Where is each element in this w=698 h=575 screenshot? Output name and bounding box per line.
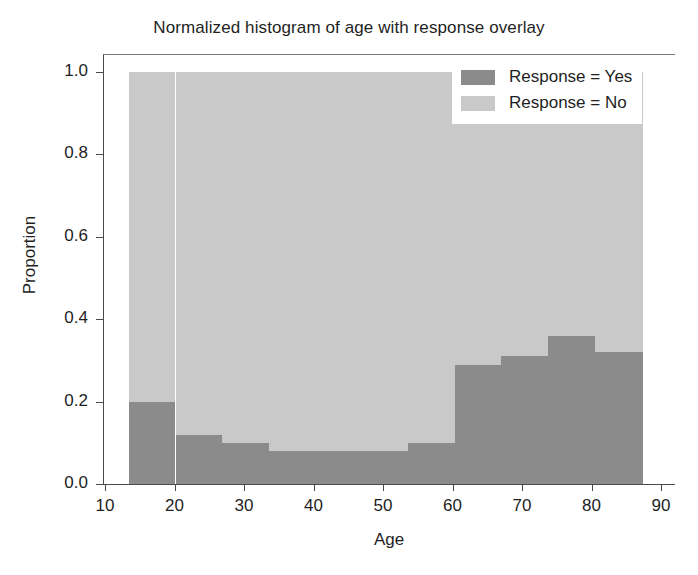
- x-tick-mark: [244, 484, 245, 491]
- x-tick-mark: [383, 484, 384, 491]
- bar-group: [222, 55, 269, 484]
- bar-segment-response-yes: [408, 443, 455, 484]
- x-tick-mark: [105, 484, 106, 491]
- bar-segment-response-yes: [269, 451, 316, 484]
- bar-segment-response-no: [408, 72, 455, 484]
- y-tick-label: 0.0: [18, 473, 88, 493]
- y-tick-label: 0.2: [18, 391, 88, 411]
- x-tick-label: 60: [423, 496, 483, 516]
- bar-segment-response-no: [222, 72, 269, 484]
- x-tick-mark: [314, 484, 315, 491]
- bar-segment-response-yes: [315, 451, 362, 484]
- legend-label: Response = Yes: [509, 67, 632, 87]
- x-tick-label: 90: [631, 496, 691, 516]
- legend-label: Response = No: [509, 93, 627, 113]
- legend-item: Response = No: [461, 90, 632, 116]
- y-tick-mark: [96, 402, 103, 403]
- chart-title: Normalized histogram of age with respons…: [0, 18, 698, 38]
- y-axis-label: Proportion: [20, 145, 40, 365]
- y-tick-label: 1.0: [18, 61, 88, 81]
- x-tick-label: 10: [75, 496, 135, 516]
- bar-group: [408, 55, 455, 484]
- x-tick-label: 50: [353, 496, 413, 516]
- y-tick-mark: [96, 154, 103, 155]
- bar-segment-response-yes: [455, 365, 502, 484]
- x-axis-label: Age: [103, 530, 675, 550]
- bar-segment-response-yes: [362, 451, 409, 484]
- legend-item: Response = Yes: [461, 64, 632, 90]
- x-tick-label: 80: [562, 496, 622, 516]
- bar-segment-response-no: [176, 72, 223, 484]
- bar-segment-response-yes: [501, 356, 548, 484]
- bar-group: [269, 55, 316, 484]
- bar-group: [362, 55, 409, 484]
- y-tick-mark: [96, 237, 103, 238]
- bar-segment-response-no: [315, 72, 362, 484]
- bar-segment-response-yes: [548, 336, 595, 484]
- bar-segment-response-no: [269, 72, 316, 484]
- y-tick-mark: [96, 484, 103, 485]
- bar-group: [129, 55, 176, 484]
- legend: Response = YesResponse = No: [452, 57, 642, 124]
- bar-segment-response-no: [362, 72, 409, 484]
- x-axis-line: [103, 484, 675, 485]
- bar-segment-response-yes: [129, 402, 176, 484]
- x-tick-mark: [592, 484, 593, 491]
- y-tick-mark: [96, 319, 103, 320]
- chart-figure: Normalized histogram of age with respons…: [0, 0, 698, 575]
- x-tick-mark: [175, 484, 176, 491]
- x-tick-label: 20: [145, 496, 205, 516]
- bar-group: [176, 55, 223, 484]
- legend-swatch: [461, 70, 495, 85]
- x-tick-mark: [453, 484, 454, 491]
- x-tick-label: 30: [214, 496, 274, 516]
- y-tick-mark: [96, 72, 103, 73]
- bar-segment-response-yes: [595, 352, 644, 484]
- bar-segment-response-yes: [176, 435, 223, 484]
- bar-group: [315, 55, 362, 484]
- legend-swatch: [461, 96, 495, 111]
- x-tick-mark: [522, 484, 523, 491]
- x-tick-label: 40: [284, 496, 344, 516]
- x-tick-mark: [661, 484, 662, 491]
- x-tick-label: 70: [492, 496, 552, 516]
- bar-segment-response-yes: [222, 443, 269, 484]
